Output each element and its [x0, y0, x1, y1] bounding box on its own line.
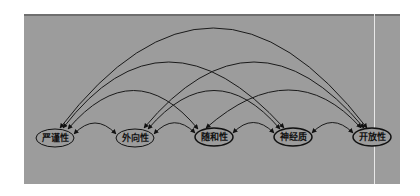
node-label: 严谨性: [41, 132, 69, 143]
edge-n4-n5: [312, 123, 353, 134]
node-n2[interactable]: 外向性: [116, 129, 154, 147]
node-label: 外向性: [121, 132, 149, 143]
network-graph: 严谨性 外向性 随和性 神经质 开放性: [0, 0, 420, 196]
node-n3[interactable]: 随和性: [195, 128, 233, 146]
edge-n3-n5: [206, 90, 361, 128]
node-label: 随和性: [201, 131, 228, 142]
node-n5[interactable]: 开放性: [353, 128, 391, 146]
node-label: 开放性: [359, 131, 386, 142]
edge-n1-n5: [60, 28, 367, 128]
edge-n3-n4: [233, 123, 274, 134]
node-label: 神经质: [280, 131, 307, 142]
edge-n2-n5: [144, 62, 364, 128]
edge-n1-n4: [63, 62, 284, 128]
edge-n2-n3: [154, 123, 195, 134]
edge-n1-n2: [74, 123, 116, 134]
node-n4[interactable]: 神经质: [274, 128, 312, 146]
node-n1[interactable]: 严谨性: [36, 129, 74, 147]
